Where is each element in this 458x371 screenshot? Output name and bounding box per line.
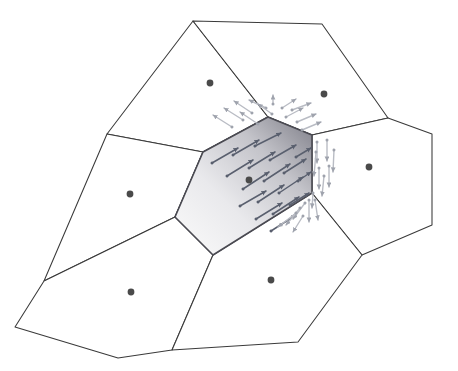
field-arrow-outer-right: [333, 150, 334, 172]
site-bottom-left: [128, 289, 135, 296]
site-bottom-right: [268, 277, 275, 284]
field-arrow-outer-right: [312, 193, 313, 208]
site-top-right: [321, 91, 328, 98]
site-top-left: [207, 80, 214, 87]
voronoi-diagram-canvas: [0, 0, 458, 371]
site-right: [366, 164, 373, 171]
site-left: [127, 191, 134, 198]
site-center: [246, 177, 253, 184]
voronoi-figure: [0, 0, 458, 371]
